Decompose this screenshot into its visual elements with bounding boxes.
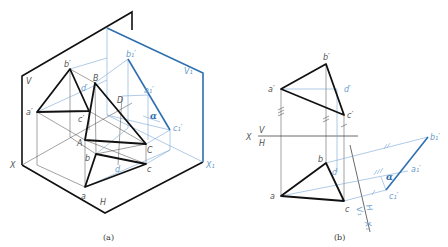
aux-projectors-b [281, 137, 428, 201]
label-d-prime: d′ [344, 85, 351, 94]
label-axis-v: V [259, 126, 265, 135]
label-axis-x1: X₁ [362, 219, 373, 230]
label-point-A: A [76, 139, 82, 148]
label-point-C: C [147, 146, 153, 155]
label-x1-h: H [364, 204, 374, 212]
label-point-B: B [93, 74, 99, 83]
figure-b: X V H b′ a′ c′ d′ b a c d b₁′ a₁′ c₁′ α … [245, 53, 440, 242]
label-a1-prime: a₁′ [144, 86, 154, 95]
label-c-prime: c′ [347, 111, 353, 120]
label-a1-prime: a₁′ [411, 165, 421, 174]
label-angle-alpha: α [150, 111, 157, 121]
label-c1-prime: c₁′ [173, 124, 183, 133]
caption-b: (b) [334, 233, 345, 242]
label-b1-prime: b₁′ [126, 50, 136, 59]
label-d-prime: d′ [81, 84, 88, 93]
label-x1-v1: V₁ [354, 206, 365, 216]
triangle-space-ABC [85, 83, 146, 144]
label-b1-prime: b₁′ [430, 133, 440, 142]
label-b-prime: b′ [323, 53, 330, 62]
label-axis-h: H [259, 139, 265, 148]
label-b: b [85, 154, 90, 163]
edge-view-v1 [386, 137, 428, 190]
label-c-prime: c′ [78, 115, 84, 124]
label-b: b [318, 155, 323, 164]
label-d: d [115, 165, 121, 174]
label-plane-h: H [100, 198, 106, 207]
label-point-D: D [117, 96, 123, 105]
label-a-prime: a′ [268, 85, 275, 94]
label-plane-v1: V₁ [184, 67, 193, 76]
figure-a: V H V₁ X X₁ b′ a′ c′ d′ B D A C b a c d … [9, 12, 215, 242]
label-a: a [270, 192, 275, 201]
label-a-prime: a′ [26, 108, 33, 117]
x1-axis-line [350, 145, 370, 232]
label-a: a [81, 192, 86, 201]
label-axis-x: X [245, 133, 252, 142]
label-plane-v: V [26, 77, 32, 86]
projection-diagram: V H V₁ X X₁ b′ a′ c′ d′ B D A C b a c d … [0, 0, 448, 247]
x1-axis-labels: H V₁ X₁ [354, 204, 378, 232]
label-c: c [345, 205, 350, 214]
label-axis-x1: X₁ [205, 161, 215, 170]
label-b-prime: b′ [64, 60, 71, 69]
h-plane-outline [22, 162, 203, 213]
label-angle-alpha: α [386, 172, 393, 182]
triangle-v-projection [281, 64, 344, 115]
caption-a: (a) [103, 233, 114, 242]
label-c: c [147, 165, 152, 174]
label-axis-x: X [9, 161, 16, 170]
label-c1-prime: c₁′ [389, 192, 399, 201]
